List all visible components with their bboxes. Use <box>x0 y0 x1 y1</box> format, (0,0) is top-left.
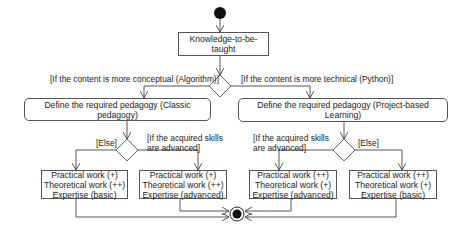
outcome-line: Expertise (advanced) <box>252 190 333 200</box>
guard-left-advanced-line2: are advanced] <box>147 143 223 153</box>
outcome-line: Theoretical work (+) <box>255 180 331 190</box>
action-classic-label: Define the required pedagogy (Classic pe… <box>25 100 210 120</box>
guard-right-advanced: [If the acquired skills are advanced] <box>253 133 329 153</box>
guard-left-advanced-line1: [If the acquired skills <box>147 133 223 143</box>
edge-right-advanced <box>279 150 333 170</box>
edge-outcome4-to-final <box>245 199 396 217</box>
outcome-line: Theoretical work (+) <box>355 180 431 190</box>
outcome-project-basic: Practical work (++) Theoretical work (+)… <box>349 170 437 199</box>
action-project-based-learning: Define the required pedagogy (Project-ba… <box>238 98 448 122</box>
outcome-line: Practical work (++) <box>357 170 429 180</box>
outcome-line: Practical work (++) <box>257 170 329 180</box>
edge-left-else <box>76 150 116 170</box>
guard-right-advanced-line1: [If the acquired skills <box>253 133 329 143</box>
guard-conceptual: [If the content is more conceptual (Algo… <box>50 74 219 84</box>
knowledge-node: Knowledge-to-be-taught <box>178 32 269 56</box>
outcome-line: Expertise (basic) <box>53 190 117 200</box>
guard-left-else: [Else] <box>96 138 117 148</box>
edge-decision-to-project <box>231 86 310 98</box>
action-project-label: Define the required pedagogy (Project-ba… <box>239 100 447 120</box>
guard-right-else: [Else] <box>358 138 379 148</box>
outcome-project-advanced: Practical work (++) Theoretical work (+)… <box>249 170 337 199</box>
action-classic-pedagogy: Define the required pedagogy (Classic pe… <box>24 98 211 121</box>
decision-right <box>333 139 355 161</box>
outcome-classic-basic: Practical work (+) Theoretical work (++)… <box>41 170 128 199</box>
edge-right-else <box>355 150 402 170</box>
guard-technical: [If the content is more technical (Pytho… <box>241 74 393 84</box>
outcome-line: Practical work (+) <box>150 170 217 180</box>
outcome-classic-advanced: Practical work (+) Theoretical work (++)… <box>139 170 227 199</box>
decision-left <box>116 139 138 161</box>
final-node <box>233 210 242 219</box>
outcome-line: Expertise (advanced) <box>142 190 223 200</box>
edge-left-advanced <box>138 150 198 170</box>
edge-outcome2-to-final <box>180 199 229 211</box>
outcome-line: Theoretical work (++) <box>44 180 125 190</box>
initial-node <box>214 7 226 19</box>
edge-outcome1-to-final <box>76 199 229 217</box>
outcome-line: Practical work (+) <box>51 170 118 180</box>
knowledge-label: Knowledge-to-be-taught <box>179 34 268 54</box>
edge-outcome3-to-final <box>245 199 291 211</box>
outcome-line: Theoretical work (++) <box>142 180 223 190</box>
edge-decision-to-classic <box>144 86 209 98</box>
outcome-line: Expertise (basic) <box>361 190 425 200</box>
guard-left-advanced: [If the acquired skills are advanced] <box>147 133 223 153</box>
guard-right-advanced-line2: are advanced] <box>253 143 329 153</box>
